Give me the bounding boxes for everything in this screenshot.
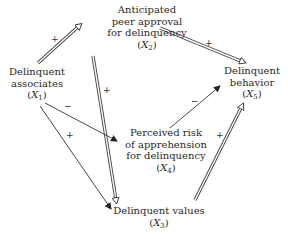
edge-x1-x2 xyxy=(38,24,82,64)
node-x4-line-2: of apprehension xyxy=(118,139,214,151)
node-x4-perceived-risk: Perceived risk of apprehension for delin… xyxy=(118,127,214,177)
node-x5-variable: (X5) xyxy=(220,88,284,104)
node-x4-line-3: for delinquency xyxy=(118,150,214,162)
sign-x2-x3: + xyxy=(103,86,111,95)
node-x3-variable: (X3) xyxy=(110,217,208,233)
node-x5-line-1: Delinquent xyxy=(220,65,284,77)
sign-x1-x3: + xyxy=(66,131,74,140)
node-x4-variable: (X4) xyxy=(118,162,214,178)
node-x2-line-1: Anticipated xyxy=(92,4,202,16)
node-x1-line-1: Delinquent xyxy=(6,66,68,78)
node-x1-line-2: associates xyxy=(6,78,68,90)
node-x3-line-1: Delinquent values xyxy=(110,205,208,217)
node-x5-delinquent-behavior: Delinquent behavior (X5) xyxy=(220,65,284,104)
sign-x3-x5: + xyxy=(216,131,224,140)
node-x2-line-3: for delinquency xyxy=(92,27,202,39)
sign-x1-x4: − xyxy=(64,102,72,111)
node-x2-anticipated-peer-approval: Anticipated peer approval for delinquenc… xyxy=(92,4,202,54)
node-x2-line-2: peer approval xyxy=(92,16,202,28)
sign-x4-x5: − xyxy=(191,97,199,106)
sign-x2-x5: + xyxy=(205,39,213,48)
node-x3-delinquent-values: Delinquent values (X3) xyxy=(110,205,208,232)
edge-x1-x4 xyxy=(45,103,117,141)
edge-x4-x5 xyxy=(170,86,220,128)
edge-x1-x3 xyxy=(40,106,111,209)
node-x4-line-1: Perceived risk xyxy=(118,127,214,139)
node-x2-variable: (X2) xyxy=(92,39,202,55)
node-x1-delinquent-associates: Delinquent associates (X1) xyxy=(6,66,68,105)
node-x5-line-2: behavior xyxy=(220,77,284,89)
node-x1-variable: (X1) xyxy=(6,89,68,105)
sign-x1-x2: + xyxy=(51,35,59,44)
